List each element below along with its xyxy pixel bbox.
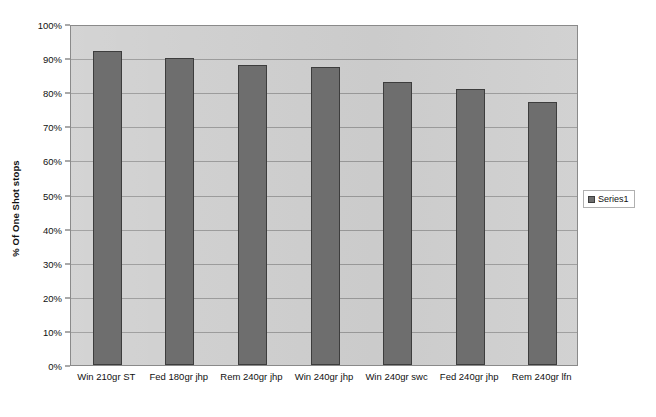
x-axis-tick-label: Win 210gr ST [77, 371, 135, 382]
y-axis-tick-label: 90% [43, 54, 62, 65]
plot-area [70, 25, 578, 366]
bar [238, 65, 267, 365]
bar [311, 67, 340, 365]
y-axis-ticks: 0%10%20%30%40%50%60%70%80%90%100% [0, 0, 70, 417]
y-axis-tick-label: 80% [43, 88, 62, 99]
y-axis-tick-label: 100% [38, 20, 62, 31]
y-axis-tick-label: 50% [43, 190, 62, 201]
y-axis-title: % Of One Shot stops [6, 0, 24, 417]
y-axis-tick-label: 70% [43, 122, 62, 133]
y-axis-tick-label: 20% [43, 292, 62, 303]
y-axis-tick-label: 40% [43, 224, 62, 235]
x-axis-tick-label: Rem 240gr jhp [220, 371, 282, 382]
y-axis-tick-label: 0% [48, 361, 62, 372]
bar [528, 102, 557, 365]
bar [165, 58, 194, 365]
chart-legend: Series1 [583, 190, 635, 208]
y-axis-tick-label: 10% [43, 326, 62, 337]
legend-entry-label: Series1 [598, 194, 629, 204]
legend-swatch-icon [588, 196, 595, 203]
x-axis-tick-label: Win 240gr jhp [295, 371, 354, 382]
x-axis-labels: Win 210gr STFed 180gr jhpRem 240gr jhpWi… [70, 371, 578, 391]
x-axis-tick-label: Rem 240gr lfn [512, 371, 572, 382]
y-axis-tick-label: 30% [43, 258, 62, 269]
bar [93, 51, 122, 365]
bar [383, 82, 412, 365]
x-axis-tick-label: Fed 240gr jhp [440, 371, 499, 382]
bars-layer [71, 26, 577, 365]
x-axis-tick-label: Fed 180gr jhp [150, 371, 209, 382]
y-axis-title-text: % Of One Shot stops [10, 160, 21, 256]
x-axis-tick-label: Win 240gr swc [365, 371, 427, 382]
bar [456, 89, 485, 365]
chart-container: % Of One Shot stops 0%10%20%30%40%50%60%… [0, 0, 656, 417]
y-axis-tick-label: 60% [43, 156, 62, 167]
